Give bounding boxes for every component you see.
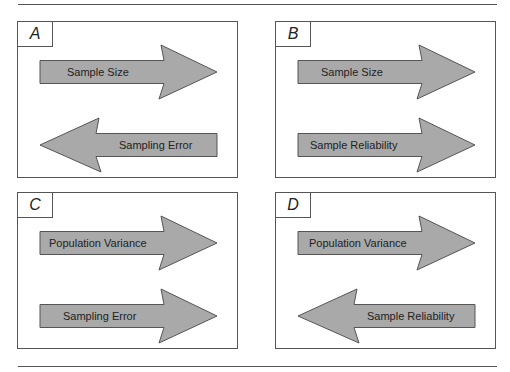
arrow-label: Sample Size — [67, 66, 129, 78]
panel-d: D Population Variance Sample Reliability — [275, 192, 496, 349]
arrow-1: Sampling Error — [40, 118, 217, 172]
arrow-0: Sample Size — [40, 45, 217, 99]
panel-b: B Sample Size Sample Reliability — [275, 21, 496, 178]
arrow-label: Sample Reliability — [367, 310, 455, 322]
arrow-label: Sampling Error — [119, 139, 193, 151]
arrows: Sample Size Sample Reliability — [276, 22, 497, 179]
arrow-label: Sample Size — [321, 66, 383, 78]
arrow-1: Sample Reliability — [298, 289, 475, 343]
arrow-label: Sample Reliability — [310, 139, 398, 151]
arrows: Population Variance Sampling Error — [18, 193, 239, 350]
arrow-label: Population Variance — [49, 237, 147, 249]
arrow-0: Population Variance — [298, 216, 475, 270]
panel-a: A Sample Size Sampling Error — [17, 21, 238, 178]
arrow-label: Population Variance — [309, 237, 407, 249]
arrow-0: Sample Size — [298, 45, 475, 99]
bottom-rule — [18, 366, 497, 367]
arrows: Sample Size Sampling Error — [18, 22, 239, 179]
arrow-0: Population Variance — [40, 216, 217, 270]
panel-c: C Population Variance Sampling Error — [17, 192, 238, 349]
arrow-1: Sample Reliability — [298, 118, 475, 172]
arrows: Population Variance Sample Reliability — [276, 193, 497, 350]
arrow-label: Sampling Error — [63, 310, 137, 322]
arrow-1: Sampling Error — [40, 289, 217, 343]
top-rule — [18, 4, 497, 5]
